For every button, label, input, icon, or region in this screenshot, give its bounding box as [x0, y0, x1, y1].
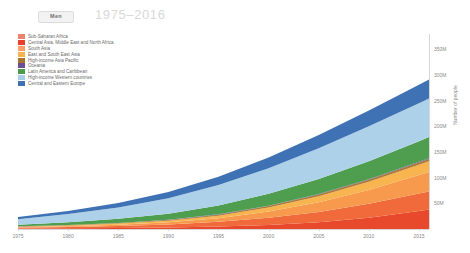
x-axis-tick-label: 1985	[113, 233, 124, 239]
page-title: 1975–2016	[95, 7, 165, 22]
plot-area	[18, 34, 429, 229]
stacked-area-chart	[18, 34, 429, 229]
x-axis-tick-mark	[319, 229, 320, 231]
y-axis-tick-label: 200M	[434, 123, 447, 129]
x-axis-tick-mark	[18, 229, 19, 231]
y-axis-tick-label: 50M	[434, 200, 444, 206]
y-axis-tick-label: 300M	[434, 72, 447, 78]
chart-header: Men 1975–2016	[0, 0, 470, 30]
chart-page: Men 1975–2016 Sub-Saharan AfricaCentral …	[0, 0, 470, 253]
x-axis-tick-mark	[269, 229, 270, 231]
x-axis-line	[18, 229, 429, 230]
x-axis-tick-label: 1980	[63, 233, 74, 239]
y-axis-tick-label: 250M	[434, 98, 447, 104]
y-axis-line	[429, 34, 430, 229]
x-axis-tick-label: 2000	[263, 233, 274, 239]
x-axis-tick-label: 2005	[313, 233, 324, 239]
y-axis-tick-label: 350M	[434, 46, 447, 52]
toggle-men-button[interactable]: Men	[38, 11, 74, 23]
y-axis-tick-label: 150M	[434, 149, 447, 155]
sex-toggle-group[interactable]: Men	[38, 11, 74, 23]
x-axis-tick-mark	[68, 229, 69, 231]
y-axis: 50M100M150M200M250M300M350M	[429, 34, 431, 229]
x-axis-tick-mark	[419, 229, 420, 231]
x-axis-tick-label: 1995	[213, 233, 224, 239]
y-axis-tick-label: 100M	[434, 175, 447, 181]
x-axis-tick-mark	[369, 229, 370, 231]
x-axis-tick-label: 2015	[413, 233, 424, 239]
x-axis-tick-mark	[218, 229, 219, 231]
x-axis-tick-label: 2010	[363, 233, 374, 239]
x-axis-tick-mark	[168, 229, 169, 231]
y-axis-title: Number of people	[452, 85, 458, 125]
x-axis-tick-mark	[118, 229, 119, 231]
x-axis-tick-label: 1990	[163, 233, 174, 239]
x-axis-tick-label: 1975	[12, 233, 23, 239]
